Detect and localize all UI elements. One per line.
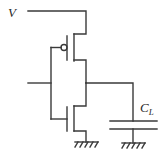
pmos-bubble-icon	[61, 45, 67, 51]
load-capacitor	[110, 121, 157, 143]
pmos-transistor	[51, 34, 86, 83]
ground-icon	[75, 142, 98, 147]
cmos-inverter-diagram: V CL	[0, 0, 166, 157]
output-wire	[86, 83, 133, 121]
pmos-drain-wire	[74, 60, 86, 83]
nmos-drain-wire	[74, 83, 86, 106]
nmos-source-wire	[74, 131, 86, 142]
nmos-transistor	[51, 83, 86, 142]
ground-icon	[122, 143, 145, 148]
supply-wire	[28, 11, 86, 34]
capacitor-label: CL	[140, 100, 154, 117]
supply-label: V	[8, 5, 18, 20]
